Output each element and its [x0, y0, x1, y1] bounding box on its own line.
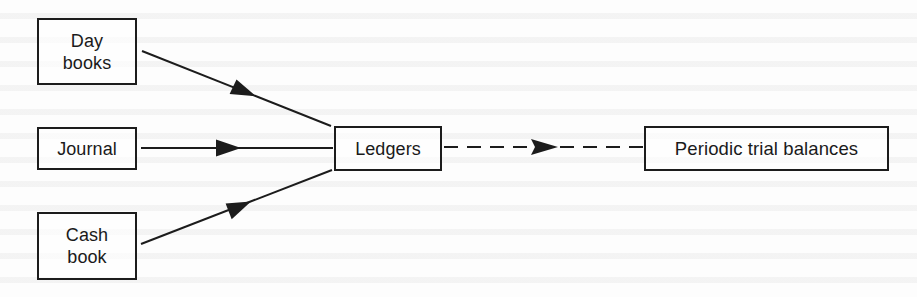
- node-periodic-trial-balances: Periodic trial balances: [644, 126, 889, 171]
- node-label: Ledgers: [355, 138, 421, 160]
- node-label: Cash book: [66, 224, 108, 268]
- arrowhead-icon: [531, 139, 558, 155]
- arrowhead-icon: [230, 80, 256, 97]
- arrowhead-icon: [216, 140, 241, 157]
- node-day-books: Day books: [37, 18, 137, 85]
- diagram-page: Day books Journal Cash book Ledgers Peri…: [0, 0, 917, 297]
- node-label: Periodic trial balances: [675, 138, 858, 160]
- node-journal: Journal: [37, 127, 137, 170]
- edge-cash-book-to-ledgers: [141, 170, 332, 244]
- node-label: Journal: [57, 138, 117, 160]
- node-label: Day books: [63, 30, 112, 74]
- edge-day-books-to-ledgers: [142, 51, 331, 126]
- arrowhead-icon: [226, 201, 251, 219]
- node-cash-book: Cash book: [37, 212, 137, 280]
- edge-journal-to-ledgers: [141, 140, 333, 157]
- node-ledgers: Ledgers: [334, 126, 442, 171]
- edge-ledgers-to-trial-balances: [444, 139, 643, 155]
